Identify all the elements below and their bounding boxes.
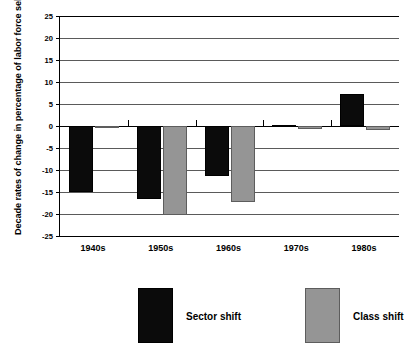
y-axis-tick-label: 20 bbox=[31, 34, 53, 43]
y-axis-tick-label: -25 bbox=[31, 232, 53, 241]
gridline bbox=[60, 148, 399, 149]
gridline bbox=[60, 214, 399, 215]
y-axis-tick-label: -5 bbox=[31, 144, 53, 153]
gridline bbox=[60, 82, 399, 83]
y-axis-tick bbox=[56, 170, 60, 171]
legend-swatch-class-shift bbox=[305, 288, 340, 343]
gridline bbox=[60, 16, 399, 17]
y-axis-title: Decade rates of change in percentage of … bbox=[13, 17, 25, 235]
y-axis-tick bbox=[56, 192, 60, 193]
gridline bbox=[60, 170, 399, 171]
y-axis-tick bbox=[56, 126, 60, 127]
y-axis-tick-label: 0 bbox=[31, 122, 53, 131]
gridline bbox=[60, 38, 399, 39]
bar-1940s-sector-shift bbox=[69, 126, 93, 192]
gridline bbox=[60, 236, 399, 237]
bar-1960s-sector-shift bbox=[205, 126, 229, 176]
y-axis-tick-label: -15 bbox=[31, 188, 53, 197]
y-axis-tick bbox=[56, 104, 60, 105]
chart-figure: Decade rates of change in percentage of … bbox=[0, 0, 411, 356]
x-axis-label-1980s: 1980s bbox=[334, 243, 394, 253]
bar-1950s-sector-shift bbox=[137, 126, 161, 199]
gridline bbox=[60, 60, 399, 61]
y-axis-tick bbox=[56, 16, 60, 17]
bar-1970s-class-shift bbox=[298, 126, 322, 129]
bar-1980s-class-shift bbox=[366, 126, 390, 130]
y-axis-tick bbox=[56, 82, 60, 83]
legend-swatch-sector-shift bbox=[138, 288, 173, 343]
y-axis-tick-label: 15 bbox=[31, 56, 53, 65]
x-axis-label-1960s: 1960s bbox=[199, 243, 259, 253]
x-axis-label-1940s: 1940s bbox=[63, 243, 123, 253]
x-axis-label-1970s: 1970s bbox=[266, 243, 326, 253]
y-axis-tick-label: -10 bbox=[31, 166, 53, 175]
bar-1950s-class-shift bbox=[163, 126, 187, 215]
y-axis-tick bbox=[56, 236, 60, 237]
bar-1970s-sector-shift bbox=[272, 125, 296, 127]
chart-legend: Sector shiftClass shift bbox=[0, 288, 411, 350]
legend-label: Sector shift bbox=[186, 311, 241, 322]
y-axis-tick-label: 5 bbox=[31, 100, 53, 109]
y-axis-tick bbox=[56, 60, 60, 61]
legend-label: Class shift bbox=[353, 311, 404, 322]
y-axis-tick-label: 10 bbox=[31, 78, 53, 87]
bar-1960s-class-shift bbox=[231, 126, 255, 202]
category-separator-tick bbox=[196, 120, 197, 127]
y-axis-tick bbox=[56, 214, 60, 215]
bar-1940s-class-shift bbox=[95, 126, 119, 128]
y-axis-tick-label: 25 bbox=[31, 12, 53, 21]
category-separator-tick bbox=[263, 120, 264, 127]
y-axis-tick bbox=[56, 38, 60, 39]
y-axis-tick-label: -20 bbox=[31, 210, 53, 219]
category-separator-tick bbox=[128, 120, 129, 127]
plot-area bbox=[59, 16, 398, 236]
gridline bbox=[60, 192, 399, 193]
x-axis-label-1950s: 1950s bbox=[131, 243, 191, 253]
y-axis-tick bbox=[56, 148, 60, 149]
bar-1980s-sector-shift bbox=[340, 94, 364, 126]
category-separator-tick bbox=[331, 120, 332, 127]
